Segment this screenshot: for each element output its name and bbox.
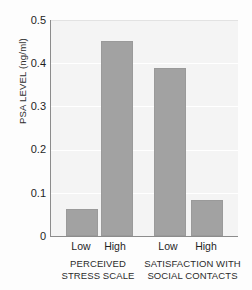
gridline-0.3 bbox=[51, 106, 238, 107]
bar-pss-high bbox=[101, 41, 133, 236]
group-label-line1: PERCEIVED bbox=[48, 258, 148, 270]
y-tick-0: 0 bbox=[16, 231, 46, 242]
y-axis-tick-labels: 0.5 0.4 0.3 0.2 0.1 0 bbox=[12, 0, 46, 290]
gridline-0.4 bbox=[51, 63, 238, 64]
y-tick-0.1: 0.1 bbox=[16, 188, 46, 199]
y-tick-0.2: 0.2 bbox=[16, 144, 46, 155]
y-tick-0.5: 0.5 bbox=[16, 15, 46, 26]
bar-satisfaction-low bbox=[154, 68, 186, 236]
y-tick-0.4: 0.4 bbox=[16, 58, 46, 69]
gridline-0.2 bbox=[51, 150, 238, 151]
bar-pss-low bbox=[66, 209, 98, 236]
gridline-0.1 bbox=[51, 193, 238, 194]
plot-area bbox=[50, 20, 238, 237]
group-label-perceived-stress-scale: PERCEIVED STRESS SCALE bbox=[48, 258, 148, 282]
y-tick-0.3: 0.3 bbox=[16, 101, 46, 112]
bar-satisfaction-high bbox=[191, 200, 223, 236]
gridline-0.5 bbox=[51, 20, 238, 21]
group-label-line2: SOCIAL CONTACTS bbox=[135, 270, 250, 282]
group-label-line2: STRESS SCALE bbox=[48, 270, 148, 282]
x-tick-label-satisfaction-high: High bbox=[181, 240, 231, 252]
group-label-satisfaction-social-contacts: SATISFACTION WITH SOCIAL CONTACTS bbox=[135, 258, 250, 282]
x-tick-label-pss-high: High bbox=[90, 240, 140, 252]
chart-figure: PSA LEVEL (ng/ml) 0.5 0.4 0.3 0.2 0.1 0 … bbox=[0, 0, 252, 290]
plot-inner bbox=[51, 20, 238, 236]
group-label-line1: SATISFACTION WITH bbox=[135, 258, 250, 270]
